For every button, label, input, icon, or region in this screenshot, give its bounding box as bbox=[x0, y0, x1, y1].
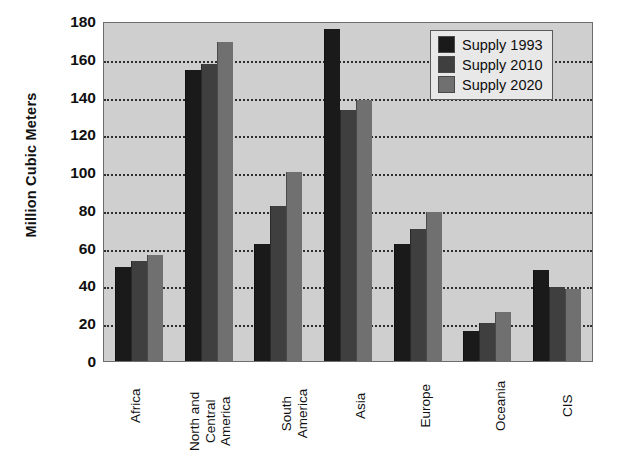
x-axis-tick-label: Europe bbox=[418, 384, 434, 428]
bar bbox=[217, 42, 233, 361]
x-axis-tick-label-line: Africa bbox=[127, 389, 143, 424]
bar-group bbox=[254, 23, 302, 361]
y-axis-tick-label: 120 bbox=[70, 126, 96, 144]
x-axis-tick-label-line: Asia bbox=[354, 393, 370, 419]
legend-label: Supply 2010 bbox=[462, 57, 543, 73]
x-axis-tick: CIS bbox=[556, 364, 579, 468]
y-axis-tick-label: 180 bbox=[70, 13, 96, 31]
y-axis-tick-label: 80 bbox=[79, 202, 96, 220]
bar bbox=[147, 255, 163, 361]
bar bbox=[356, 100, 372, 361]
y-axis-tick-label: 160 bbox=[70, 51, 96, 69]
y-axis-tick-label: 20 bbox=[79, 315, 96, 333]
x-axis-tick-label: SouthAmerica bbox=[279, 389, 310, 439]
x-axis-tick-labels: AfricaNorth andCentralAmericaSouthAmeric… bbox=[103, 364, 593, 468]
bar bbox=[463, 331, 479, 361]
legend-label: Supply 1993 bbox=[462, 37, 543, 53]
bar bbox=[286, 172, 302, 361]
x-axis-tick-label: Asia bbox=[354, 393, 370, 419]
bar bbox=[410, 229, 426, 361]
x-axis-tick: North andCentralAmerica bbox=[181, 364, 240, 468]
bar bbox=[254, 244, 270, 361]
legend-item: Supply 2020 bbox=[438, 76, 543, 93]
legend-swatch-icon bbox=[438, 36, 455, 53]
x-axis-tick: SouthAmerica bbox=[270, 364, 320, 468]
x-axis-tick: Africa bbox=[118, 364, 153, 468]
y-axis-tick-label: 60 bbox=[79, 240, 96, 258]
legend-item: Supply 1993 bbox=[438, 36, 543, 53]
legend-swatch-icon bbox=[438, 56, 455, 73]
y-axis-tick-label: 140 bbox=[70, 89, 96, 107]
bar bbox=[131, 261, 147, 361]
x-axis-tick-label: Oceania bbox=[494, 381, 510, 431]
bar bbox=[185, 70, 201, 361]
x-axis-tick: Asia bbox=[348, 364, 374, 468]
y-axis-tick-label: 100 bbox=[70, 164, 96, 182]
x-axis-tick-label-line: Central bbox=[203, 392, 219, 451]
x-axis-tick: Oceania bbox=[476, 364, 526, 468]
x-axis-tick-label-line: America bbox=[219, 392, 235, 451]
x-axis-tick-label-line: CIS bbox=[559, 395, 575, 418]
bar bbox=[115, 267, 131, 361]
bar-chart-figure: Million Cubic Meters 0204060801001201401… bbox=[0, 0, 624, 468]
x-axis-tick-label-line: Europe bbox=[418, 384, 434, 428]
bar bbox=[201, 64, 217, 361]
legend-swatch-icon bbox=[438, 76, 455, 93]
bar bbox=[565, 289, 581, 361]
x-axis-tick-label-line: North and bbox=[188, 392, 204, 451]
x-axis-tick-label-line: South bbox=[279, 389, 295, 439]
bar-group bbox=[185, 23, 233, 361]
y-axis-title-text: Million Cubic Meters bbox=[22, 93, 38, 238]
x-axis-tick-label: CIS bbox=[559, 395, 575, 418]
y-axis-tick-label: 40 bbox=[79, 277, 96, 295]
bar bbox=[270, 206, 286, 361]
legend: Supply 1993Supply 2010Supply 2020 bbox=[430, 30, 553, 100]
x-axis-tick-label: Africa bbox=[127, 389, 143, 424]
bar-group bbox=[324, 23, 372, 361]
y-axis-tick-labels: 020406080100120140160180 bbox=[50, 22, 102, 362]
legend-item: Supply 2010 bbox=[438, 56, 543, 73]
bar bbox=[394, 244, 410, 361]
bar bbox=[549, 287, 565, 361]
x-axis-tick-label-line: Oceania bbox=[494, 381, 510, 431]
bar bbox=[495, 312, 511, 361]
x-axis-tick: Europe bbox=[404, 364, 448, 468]
legend-label: Supply 2020 bbox=[462, 77, 543, 93]
bar-group bbox=[115, 23, 163, 361]
y-axis-tick-label: 0 bbox=[87, 353, 96, 371]
bar bbox=[479, 323, 495, 361]
bar bbox=[533, 270, 549, 361]
x-axis-tick-label-line: America bbox=[294, 389, 310, 439]
bar bbox=[324, 29, 340, 361]
bar bbox=[426, 212, 442, 361]
x-axis-tick-label: North andCentralAmerica bbox=[188, 392, 235, 451]
bar bbox=[340, 110, 356, 361]
